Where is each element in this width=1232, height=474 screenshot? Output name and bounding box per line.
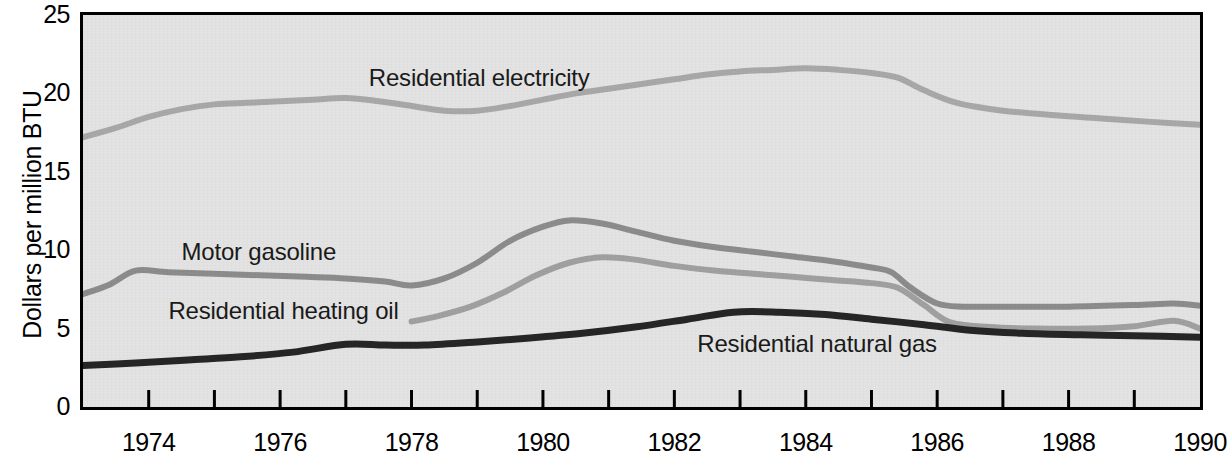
x-tick-label: 1980 <box>488 430 598 455</box>
series-label: Residential heating oil <box>168 297 398 325</box>
x-tick-label: 1990 <box>1145 430 1232 455</box>
series-line <box>412 257 1200 329</box>
y-tick-label: 15 <box>14 159 70 184</box>
y-tick-label: 0 <box>14 394 70 419</box>
y-tick-label: 20 <box>14 80 70 105</box>
y-axis-title: Dollars per million BTU <box>18 20 47 410</box>
series-label: Motor gasoline <box>182 238 337 266</box>
y-tick-label: 25 <box>14 2 70 27</box>
x-tick-label: 1988 <box>1014 430 1124 455</box>
x-tick-label: 1986 <box>882 430 992 455</box>
x-tick-label: 1982 <box>619 430 729 455</box>
x-tick-label: 1978 <box>357 430 467 455</box>
y-tick-label: 10 <box>14 237 70 262</box>
x-tick-label: 1984 <box>751 430 861 455</box>
series-label: Residential electricity <box>369 64 590 92</box>
plot-lines <box>83 15 1200 407</box>
x-tick-label: 1974 <box>94 430 204 455</box>
series-line <box>83 68 1200 137</box>
x-tick-label: 1976 <box>225 430 335 455</box>
plot-area <box>80 12 1203 410</box>
series-label: Residential natural gas <box>697 330 937 358</box>
y-tick-label: 5 <box>14 316 70 341</box>
